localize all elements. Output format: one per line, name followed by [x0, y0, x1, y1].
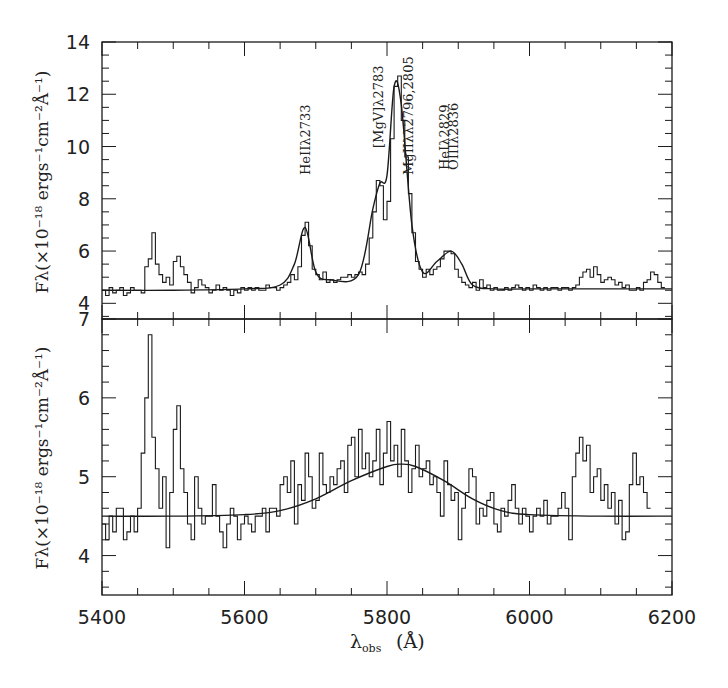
x-tick-label: 5400 — [78, 606, 126, 628]
emission-line-label: HeIIλ2733 — [298, 104, 313, 175]
fit-curve — [102, 81, 672, 291]
y-tick-label: 6 — [78, 240, 90, 262]
emission-line-label: OIIIλ2836 — [446, 103, 461, 170]
y-tick-label: 6 — [78, 387, 90, 409]
bottom-panel: 456754005600580060006200 — [78, 308, 696, 628]
emission-line-label: [MgV]λ2783 — [371, 66, 386, 149]
x-tick-label: 5600 — [220, 606, 268, 628]
svg-text:obs: obs — [362, 642, 382, 655]
top-panel: 468101214 — [66, 31, 672, 319]
y-tick-label: 7 — [78, 308, 90, 330]
y-tick-label: 12 — [66, 83, 90, 105]
line-annotations: HeIIλ2733[MgV]λ2783MgIIλλ2796,2805HeIλ28… — [298, 56, 461, 175]
svg-text:λ: λ — [350, 630, 362, 652]
x-tick-label: 5800 — [363, 606, 411, 628]
y-axis-title-bottom: Fλ(×10⁻¹⁸ ergs⁻¹cm⁻²Å⁻¹) — [32, 347, 52, 570]
y-tick-label: 10 — [66, 136, 90, 158]
y-tick-label: 8 — [78, 188, 90, 210]
x-tick-label: 6000 — [505, 606, 553, 628]
spectrum-plot: 468101214 456754005600580060006200 HeIIλ… — [0, 0, 728, 688]
spectrum-figure: 468101214 456754005600580060006200 HeIIλ… — [0, 0, 728, 688]
emission-line-label: MgIIλλ2796,2805 — [401, 56, 416, 175]
svg-text:(Å): (Å) — [396, 630, 425, 652]
y-tick-label: 5 — [78, 466, 90, 488]
y-axis-title-top: Fλ(×10⁻¹⁸ ergs⁻¹cm⁻²Å⁻¹) — [32, 71, 52, 294]
x-tick-label: 6200 — [648, 606, 696, 628]
y-tick-label: 4 — [78, 545, 90, 567]
y-tick-label: 14 — [66, 31, 90, 53]
x-axis-title: λ obs (Å) — [350, 630, 425, 655]
